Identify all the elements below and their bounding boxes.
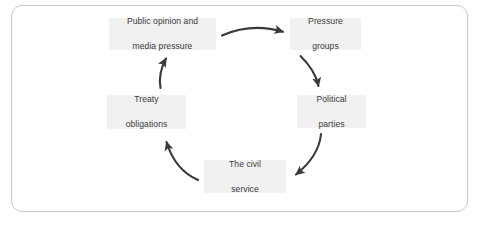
- arrow-treaty-to-public: [160, 59, 166, 89]
- arrow-civil-to-treaty: [167, 142, 199, 180]
- node-pressure-groups[interactable]: Pressure groups: [290, 18, 361, 50]
- node-pressure-groups-line2: groups: [305, 40, 346, 52]
- node-treaty-obligations[interactable]: Treaty obligations: [107, 95, 186, 129]
- node-political-parties-line2: parties: [313, 118, 349, 130]
- node-pressure-groups-line1: Pressure: [305, 15, 346, 27]
- node-civil-service-line1: The civil: [226, 158, 264, 170]
- arrow-pressure-to-parties: [301, 56, 319, 86]
- node-political-parties-line1: Political: [313, 93, 349, 105]
- cycle-diagram: Public opinion and media pressure Pressu…: [0, 0, 484, 225]
- node-civil-service[interactable]: The civil service: [204, 160, 286, 193]
- node-public-opinion-line1: Public opinion and: [124, 15, 201, 27]
- arrow-parties-to-civil: [296, 134, 321, 175]
- arrow-public-to-pressure: [222, 28, 283, 36]
- node-treaty-obligations-line2: obligations: [123, 118, 171, 130]
- node-public-opinion-line2: media pressure: [124, 40, 201, 52]
- node-civil-service-line2: service: [226, 183, 264, 195]
- node-treaty-obligations-line1: Treaty: [123, 93, 171, 105]
- node-political-parties[interactable]: Political parties: [297, 95, 366, 128]
- node-public-opinion[interactable]: Public opinion and media pressure: [109, 18, 216, 50]
